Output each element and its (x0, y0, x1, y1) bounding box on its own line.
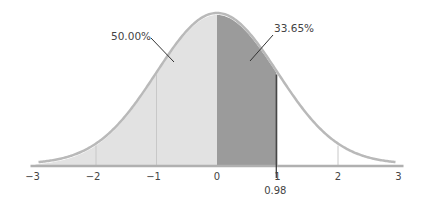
z-marker-label: 0.98 (264, 185, 286, 196)
x-tick-label: −1 (146, 171, 161, 182)
region-zero-to-z (217, 15, 276, 166)
left-area-label: 50.00% (111, 30, 151, 42)
x-tick-labels: −3−2−10123 (25, 171, 402, 182)
x-tick-label: 3 (395, 171, 401, 182)
shaded-regions (36, 15, 277, 166)
right-area-label: 33.65% (274, 22, 314, 34)
x-tick-label: 1 (274, 171, 280, 182)
x-tick-label: −3 (25, 171, 40, 182)
x-tick-label: 0 (214, 171, 220, 182)
x-tick-label: 2 (335, 171, 341, 182)
x-tick-label: −2 (86, 171, 101, 182)
normal-distribution-chart: −3−2−10123 50.00% 33.65% 0.98 (0, 0, 426, 210)
